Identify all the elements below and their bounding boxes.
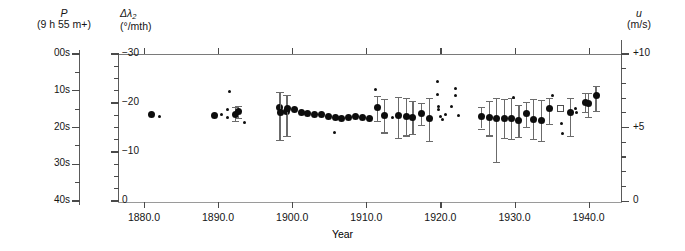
data-point: [585, 100, 592, 107]
data-point-small: [457, 114, 460, 117]
data-point-small: [450, 105, 453, 108]
error-bar-cap: [530, 139, 537, 140]
left-secondary-tick-label: −10: [122, 146, 139, 157]
right-axis-tick-label: +10: [633, 48, 650, 59]
x-axis-tick-label: 1920.0: [424, 211, 456, 223]
error-bar-cap: [426, 141, 433, 142]
data-point: [418, 110, 425, 117]
data-point: [515, 117, 522, 124]
left-primary-tick-label: 40s: [30, 195, 70, 206]
error-bar: [280, 92, 281, 140]
data-point-small: [551, 94, 554, 97]
error-bar-cap: [493, 98, 500, 99]
error-bar-cap: [235, 118, 242, 119]
error-bar-cap: [277, 140, 284, 141]
error-bar-cap: [585, 117, 592, 118]
error-bar-cap: [515, 137, 522, 138]
data-point-small: [444, 113, 447, 116]
data-point: [593, 92, 600, 99]
left-secondary-tick-label: −20: [122, 97, 139, 108]
figure-root: P (9 h 55 m+) Δλ2 (°/mth) u (m/s) 00s10s…: [0, 0, 685, 251]
left-primary-tick-label: 10s: [30, 85, 70, 96]
error-bar-cap: [593, 86, 600, 87]
left-secondary-tick-label: −30: [122, 48, 139, 59]
error-bar-cap: [284, 95, 291, 96]
error-bar: [570, 98, 571, 137]
left-axis-secondary-symbol: Δλ: [120, 7, 132, 19]
error-bar-cap: [493, 162, 500, 163]
data-point: [501, 115, 508, 122]
data-point-small: [454, 94, 457, 97]
left-primary-tick-label: 20s: [30, 122, 70, 133]
data-point-small: [228, 90, 231, 93]
data-point: [148, 111, 155, 118]
error-bar-cap: [478, 107, 485, 108]
data-point: [395, 112, 402, 119]
data-point-small: [437, 108, 440, 111]
data-point-small: [220, 113, 223, 116]
data-point: [409, 114, 416, 121]
left-axis-primary-header: P (9 h 55 m+): [24, 8, 104, 30]
error-bar-cap: [284, 136, 291, 137]
left-primary-tick-label: 30s: [30, 158, 70, 169]
error-bar-cap: [277, 92, 284, 93]
plot-area: [118, 54, 622, 203]
data-point-small: [561, 132, 564, 135]
error-bar-cap: [374, 121, 381, 122]
data-point: [352, 113, 359, 120]
error-bar: [496, 98, 497, 162]
data-point: [478, 113, 485, 120]
plot-data-layer: [118, 55, 622, 202]
right-axis-tick-label: +5: [633, 122, 644, 133]
data-point: [366, 115, 373, 122]
data-point: [381, 112, 388, 119]
data-point: [530, 116, 537, 123]
data-point-small: [436, 80, 439, 83]
data-point-small: [374, 88, 377, 91]
error-bar-cap: [546, 124, 553, 125]
data-point: [318, 111, 325, 118]
error-bar-cap: [567, 98, 574, 99]
data-point-small: [454, 87, 457, 90]
error-bar-cap: [232, 121, 239, 122]
data-point: [523, 110, 530, 117]
error-bar-cap: [515, 105, 522, 106]
error-bar-cap: [418, 103, 425, 104]
x-axis-tick-label: 1880.0: [128, 211, 160, 223]
data-point-small: [391, 116, 394, 119]
error-bar-cap: [374, 96, 381, 97]
data-point-small: [574, 107, 577, 110]
x-axis-tick-label: 1940.0: [573, 211, 605, 223]
x-axis-tick-label: 1910.0: [350, 211, 382, 223]
data-point: [211, 112, 218, 119]
data-point: [235, 108, 242, 115]
error-bar-cap: [501, 99, 508, 100]
data-point-small: [243, 121, 246, 124]
left-axis-primary-units: (9 h 55 m+): [37, 18, 91, 30]
error-bar-cap: [403, 135, 410, 136]
right-axis-units: (m/s): [627, 18, 651, 30]
x-axis-tick-label: 1900.0: [276, 211, 308, 223]
data-point: [374, 104, 381, 111]
error-bar-cap: [381, 132, 388, 133]
left-secondary-tick-label: 0: [122, 195, 128, 206]
error-bar-cap: [478, 129, 485, 130]
data-point: [291, 106, 298, 113]
error-bar-cap: [585, 93, 592, 94]
error-bar-cap: [418, 125, 425, 126]
data-point: [311, 111, 318, 118]
error-bar-cap: [409, 134, 416, 135]
error-bar-cap: [593, 111, 600, 112]
data-point-open-square: [557, 105, 564, 112]
error-bar-cap: [486, 101, 493, 102]
error-bar-cap: [409, 101, 416, 102]
x-axis-tick-label: 1890.0: [202, 211, 234, 223]
error-bar-cap: [523, 127, 530, 128]
right-axis-tick-label: 0: [633, 195, 639, 206]
data-point: [325, 113, 332, 120]
x-axis-tick-label: 1930.0: [498, 211, 530, 223]
data-point: [486, 114, 493, 121]
data-point-small: [436, 93, 439, 96]
error-bar-cap: [546, 98, 553, 99]
data-point: [508, 115, 515, 122]
